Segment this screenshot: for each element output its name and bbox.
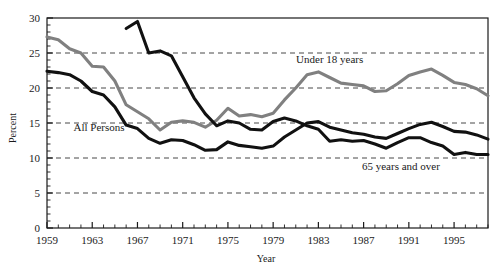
poverty-rate-line-chart: 051015202530 195919631967197119751979198…	[0, 0, 504, 274]
x-tick-label: 1979	[262, 234, 285, 246]
x-axis-title: Year	[257, 253, 276, 264]
y-tick-label: 0	[35, 222, 41, 234]
chart-background	[0, 0, 504, 274]
y-tick-label: 20	[29, 82, 41, 94]
y-tick-label: 25	[29, 47, 41, 59]
annotation-under-18-years: Under 18 years	[296, 53, 363, 65]
y-tick-label: 5	[35, 187, 41, 199]
y-tick-label: 10	[29, 152, 41, 164]
x-tick-label: 1995	[443, 234, 466, 246]
x-tick-label: 1971	[172, 234, 194, 246]
x-tick-label: 1987	[353, 234, 376, 246]
y-tick-label: 30	[29, 12, 41, 24]
chart-container: 051015202530 195919631967197119751979198…	[0, 0, 504, 274]
y-tick-label: 15	[29, 117, 41, 129]
x-tick-label: 1967	[126, 234, 149, 246]
x-tick-label: 1983	[307, 234, 330, 246]
annotation-all-persons: All Persons	[73, 121, 124, 133]
y-axis-title: Percent	[7, 113, 18, 143]
x-tick-label: 1959	[36, 234, 59, 246]
x-tick-label: 1963	[81, 234, 104, 246]
x-tick-label: 1975	[217, 234, 240, 246]
annotation-65-years-and-over: 65 years and over	[362, 160, 440, 172]
x-tick-label: 1991	[398, 234, 420, 246]
